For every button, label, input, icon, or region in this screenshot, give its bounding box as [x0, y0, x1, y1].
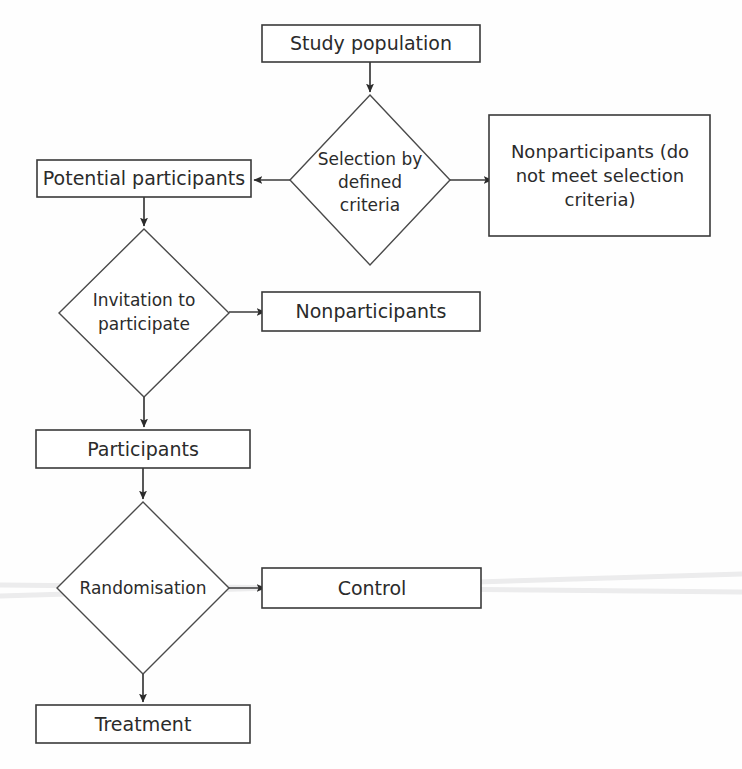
selection-criteria-label-line2: defined: [338, 172, 402, 192]
flowchart-canvas: Study population Selection by defined cr…: [0, 0, 742, 769]
selection-criteria-label-line1: Selection by: [318, 149, 423, 169]
node-selection-criteria[interactable]: Selection by defined criteria: [290, 95, 450, 265]
node-participants[interactable]: Participants: [36, 430, 250, 468]
node-invitation-participate[interactable]: Invitation to participate: [59, 229, 229, 397]
nonparticipants-criteria-label-line3: criteria): [565, 189, 636, 210]
nonparticipants-criteria-label-line2: not meet selection: [516, 165, 685, 186]
nonparticipants-label: Nonparticipants: [296, 300, 447, 322]
potential-participants-label: Potential participants: [43, 167, 245, 189]
node-nonparticipants[interactable]: Nonparticipants: [262, 292, 480, 331]
invitation-participate-diamond[interactable]: [59, 229, 229, 397]
flowchart-svg: Study population Selection by defined cr…: [0, 0, 742, 769]
selection-criteria-label-line3: criteria: [340, 195, 400, 215]
study-population-label: Study population: [290, 32, 452, 54]
invitation-participate-label-line2: participate: [98, 314, 190, 334]
participants-label: Participants: [87, 438, 199, 460]
invitation-participate-label-line1: Invitation to: [93, 290, 196, 310]
node-nonparticipants-criteria[interactable]: Nonparticipants (do not meet selection c…: [489, 115, 710, 236]
node-randomisation[interactable]: Randomisation: [57, 502, 229, 674]
treatment-label: Treatment: [94, 713, 192, 735]
node-control[interactable]: Control: [262, 568, 481, 608]
node-potential-participants[interactable]: Potential participants: [37, 160, 251, 197]
control-label: Control: [338, 577, 407, 599]
nonparticipants-criteria-label-line1: Nonparticipants (do: [511, 141, 689, 162]
node-treatment[interactable]: Treatment: [36, 705, 250, 743]
node-study-population[interactable]: Study population: [262, 25, 480, 62]
randomisation-label: Randomisation: [80, 578, 207, 598]
